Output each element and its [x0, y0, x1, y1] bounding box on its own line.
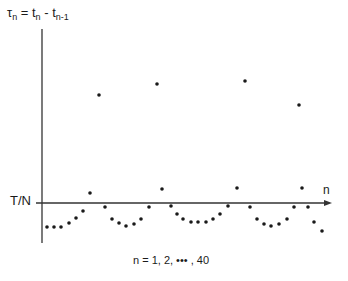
- data-point: [297, 103, 301, 107]
- data-point: [52, 225, 56, 229]
- reference-label: T/N: [10, 193, 31, 208]
- x-axis-arrow-icon: [324, 200, 332, 206]
- data-point: [110, 217, 114, 221]
- data-points: [45, 79, 324, 233]
- data-point: [300, 186, 304, 190]
- data-point: [226, 204, 230, 208]
- data-point: [169, 204, 173, 208]
- data-point: [306, 205, 310, 209]
- data-point: [88, 191, 92, 195]
- data-point: [211, 217, 215, 221]
- chart: τn = tn - tn-1 T/N n n = 1, 2, ••• , 40: [0, 0, 348, 281]
- data-point: [255, 217, 259, 221]
- data-point: [139, 217, 143, 221]
- data-point: [155, 82, 159, 86]
- plot-area: [0, 0, 348, 281]
- data-point: [124, 224, 128, 228]
- data-point: [175, 212, 179, 216]
- x-axis-label: n: [323, 183, 330, 197]
- data-point: [147, 205, 151, 209]
- data-point: [97, 93, 101, 97]
- data-point: [45, 225, 49, 229]
- data-point: [292, 205, 296, 209]
- data-point: [181, 217, 185, 221]
- data-point: [196, 220, 200, 224]
- data-point: [74, 216, 78, 220]
- data-point: [262, 222, 266, 226]
- data-point: [189, 220, 193, 224]
- caption: n = 1, 2, ••• , 40: [133, 254, 209, 266]
- data-point: [132, 222, 136, 226]
- data-point: [160, 187, 164, 191]
- data-point: [103, 205, 107, 209]
- data-point: [59, 225, 63, 229]
- data-point: [218, 212, 222, 216]
- data-point: [117, 221, 121, 225]
- data-point: [235, 186, 239, 190]
- data-point: [67, 221, 71, 225]
- data-point: [81, 209, 85, 213]
- data-point: [320, 229, 324, 233]
- data-point: [312, 220, 316, 224]
- y-axis-label: τn = tn - tn-1: [7, 5, 69, 20]
- data-point: [277, 222, 281, 226]
- data-point: [204, 220, 208, 224]
- data-point: [243, 79, 247, 83]
- data-point: [269, 224, 273, 228]
- data-point: [248, 205, 252, 209]
- data-point: [285, 217, 289, 221]
